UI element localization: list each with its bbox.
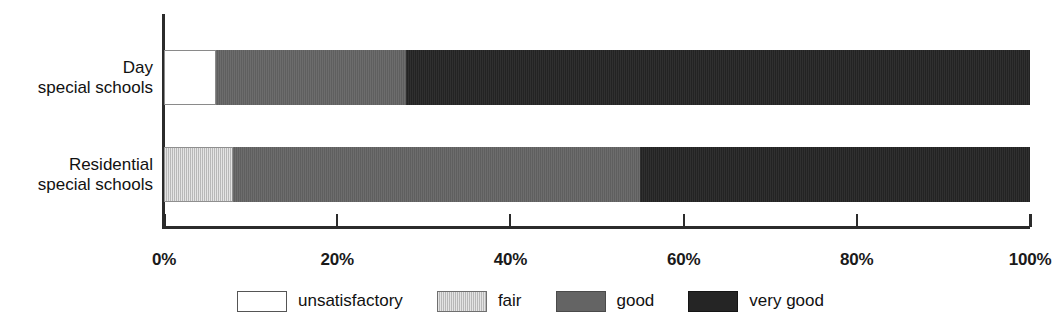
legend-swatch-unsatisfactory (237, 291, 287, 312)
x-axis-tick-label: 40% (494, 250, 527, 270)
bar-segment-unsatisfactory (164, 50, 216, 105)
chart-legend: unsatisfactoryfairgoodvery good (0, 284, 1061, 318)
x-axis-tick-label: 60% (667, 250, 700, 270)
legend-swatch-good (556, 291, 606, 312)
legend-item-good[interactable]: good (556, 291, 655, 312)
category-label: Residentialspecial schools (38, 155, 153, 195)
bar-segment-verygood (406, 50, 1030, 105)
bar-segment-good (216, 50, 407, 105)
category-label-line: special schools (38, 175, 153, 195)
bar-segment-good (233, 147, 640, 202)
category-label-line: special schools (38, 78, 153, 98)
x-axis-tick (163, 214, 166, 227)
bar-1 (164, 50, 1030, 105)
x-axis-tick (336, 214, 338, 227)
legend-label: very good (749, 291, 824, 311)
legend-item-fair[interactable]: fair (437, 291, 522, 312)
legend-label: unsatisfactory (298, 291, 403, 311)
legend-item-verygood[interactable]: very good (688, 291, 824, 312)
bar-segment-verygood (640, 147, 1030, 202)
x-axis-tick-label: 80% (840, 250, 873, 270)
legend-label: good (617, 291, 655, 311)
x-axis-tick-label: 100% (1009, 250, 1052, 270)
bar-segment-fair (164, 147, 233, 202)
x-axis-tick (856, 214, 858, 227)
category-label-line: Day (38, 58, 153, 78)
legend-swatch-fair (437, 291, 487, 312)
stacked-bar-chart: Dayspecial schoolsResidentialspecial sch… (0, 0, 1061, 326)
bar-2 (164, 147, 1030, 202)
x-axis-tick-label: 20% (320, 250, 353, 270)
category-label-line: Residential (38, 155, 153, 175)
x-axis-line (162, 226, 1030, 229)
x-axis-tick (509, 214, 511, 227)
legend-swatch-verygood (688, 291, 738, 312)
category-label: Dayspecial schools (38, 58, 153, 98)
legend-label: fair (498, 291, 522, 311)
legend-item-unsatisfactory[interactable]: unsatisfactory (237, 291, 403, 312)
x-axis-tick (683, 214, 685, 227)
x-axis-tick (1029, 214, 1032, 227)
x-axis-tick-label: 0% (152, 250, 176, 270)
